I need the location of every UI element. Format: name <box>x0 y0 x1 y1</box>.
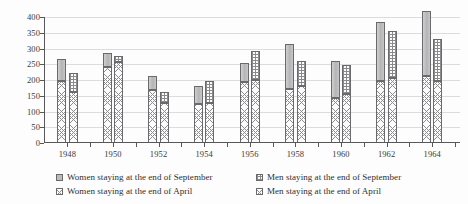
x-axis-tick-label: 1960 <box>332 149 349 159</box>
x-axis-tick-label: 1952 <box>150 149 167 159</box>
x-axis-tick-label: 1956 <box>241 149 258 159</box>
x-axis-tick-mark <box>136 143 137 147</box>
legend-item-label: Women staying at the end of September <box>67 172 213 182</box>
y-axis-tick-label: 400 <box>6 12 40 22</box>
x-axis-tick-mark <box>364 143 365 147</box>
legend-item: Women staying at the end of September <box>56 172 252 182</box>
chart-legend: Women staying at the end of SeptemberMen… <box>56 170 456 200</box>
x-axis-tick-mark <box>295 143 296 147</box>
x-axis-tick-label: 1950 <box>104 149 121 159</box>
y-axis-tick-label: 250 <box>6 59 40 69</box>
x-axis-tick-mark <box>318 143 319 147</box>
dotted-swatch <box>256 174 263 181</box>
x-axis-tick-label: 1958 <box>287 149 304 159</box>
legend-item-label: Women staying at the end of April <box>67 186 192 196</box>
legend-item: Women staying at the end of April <box>56 186 252 196</box>
x-axis-tick-label: 1962 <box>378 149 395 159</box>
x-axis-tick-mark <box>387 143 388 147</box>
y-axis-tick-label: 50 <box>6 122 40 132</box>
x-axis-tick-mark <box>67 143 68 147</box>
plot-frame <box>44 17 460 143</box>
x-axis-tick-mark <box>250 143 251 147</box>
y-axis-tick-label: 300 <box>6 44 40 54</box>
plot-area <box>44 17 460 143</box>
x-axis-tick-mark <box>432 143 433 147</box>
y-axis-tick-label: 150 <box>6 91 40 101</box>
x-axis-tick-mark <box>273 143 274 147</box>
y-axis-tick-label: 0 <box>6 138 40 148</box>
x-axis: 194819501952195419561958196019621964 <box>44 143 460 165</box>
legend-item-label: Men staying at the end of September <box>267 172 401 182</box>
y-axis-tick-label: 100 <box>6 107 40 117</box>
x-axis-tick-mark <box>227 143 228 147</box>
x-axis-tick-mark <box>204 143 205 147</box>
y-axis-tick-label: 200 <box>6 75 40 85</box>
y-axis: 050100150200250300350400 <box>0 17 40 143</box>
x-axis-tick-label: 1948 <box>59 149 76 159</box>
x-axis-tick-label: 1954 <box>195 149 212 159</box>
x-axis-tick-label: 1964 <box>424 149 441 159</box>
x-axis-tick-mark <box>113 143 114 147</box>
x-axis-tick-mark <box>455 143 456 147</box>
x-axis-tick-mark <box>409 143 410 147</box>
legend-item: Men staying at the end of September <box>256 172 456 182</box>
y-axis-tick-label: 350 <box>6 28 40 38</box>
legend-item-label: Men staying at the end of April <box>267 186 381 196</box>
x-axis-tick-mark <box>341 143 342 147</box>
x-axis-tick-mark <box>90 143 91 147</box>
chart-figure: 050100150200250300350400 194819501952195… <box>0 0 468 204</box>
cross-hatch-swatch <box>56 188 63 195</box>
cross-hatch-swatch <box>256 188 263 195</box>
x-axis-tick-mark <box>181 143 182 147</box>
x-axis-tick-mark <box>159 143 160 147</box>
legend-item: Men staying at the end of April <box>256 186 456 196</box>
solid-gray-swatch <box>56 174 63 181</box>
